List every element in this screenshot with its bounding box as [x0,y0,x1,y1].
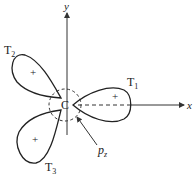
x-axis-label: x [186,99,192,111]
lobe-t3-sign: + [32,133,38,145]
y-axis-label: y [63,0,69,12]
lobe-t1-sign: + [112,90,118,102]
pz-label: pz [97,143,108,159]
lobe-t2-sign: + [30,66,36,78]
center-atom-label: C [61,98,69,112]
lobe-t3-label: T3 [45,160,56,176]
diagram-canvas: y x C + + + T1 T2 T3 pz [0,0,196,181]
sp2-hybrid-orbital-diagram: y x C + + + T1 T2 T3 pz [0,0,196,181]
lobe-t3 [17,110,61,163]
lobe-t2-label: T2 [4,43,15,59]
lobe-t1-label: T1 [127,75,138,91]
lobe-t2 [12,55,61,98]
pz-pointer [77,117,97,145]
